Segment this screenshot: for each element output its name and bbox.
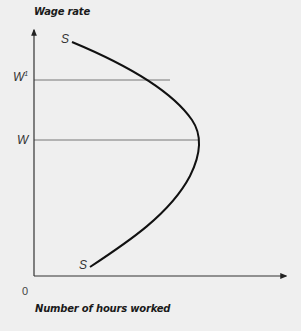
curve-label-top: S: [61, 32, 69, 46]
w-tick-label: W: [17, 133, 28, 147]
w1-tick-label: W1: [13, 70, 28, 84]
origin-label: 0: [22, 285, 28, 297]
x-axis-title: Number of hours worked: [35, 303, 170, 314]
curve-label-bottom: S: [79, 258, 87, 272]
supply-curve: [72, 42, 199, 267]
y-axis-title: Wage rate: [34, 6, 90, 17]
chart-canvas: [0, 0, 301, 331]
w1-text: W: [13, 70, 24, 84]
w1-superscript: 1: [24, 70, 28, 77]
